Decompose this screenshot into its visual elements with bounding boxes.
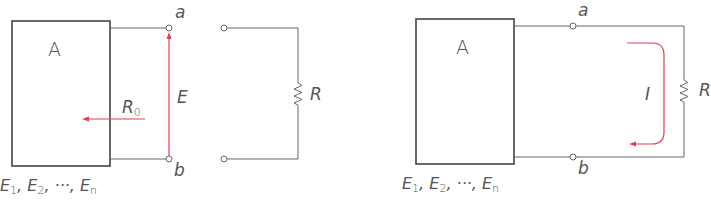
load-wire-right (576, 26, 688, 157)
current-label-i: I (645, 84, 650, 104)
terminal-b-left (166, 156, 172, 162)
network-label-right: A (456, 36, 469, 58)
r0-subscript: 0 (134, 106, 141, 119)
voltage-arrowhead-icon (167, 32, 172, 39)
circuit-diagram (0, 0, 711, 204)
load-terminal-top (221, 25, 227, 31)
r0-main: R (122, 97, 134, 117)
load-label-left: R (310, 84, 322, 104)
network-a-box-left (12, 21, 110, 166)
resistance-label-r0: R0 (122, 97, 141, 119)
network-label-left: A (48, 38, 61, 60)
terminal-b-label-left: b (174, 160, 185, 180)
terminal-a-label-right: a (578, 0, 588, 20)
terminal-a-right (570, 23, 576, 29)
terminal-a-left (166, 25, 172, 31)
terminal-b-right (570, 154, 576, 160)
load-terminal-bottom (221, 156, 227, 162)
voltage-label-e: E (177, 87, 188, 107)
sources-label-left: E1, E2, ···, En (0, 176, 97, 197)
current-arrowhead-icon (629, 142, 636, 147)
sources-label-right: E1, E2, ···, En (402, 174, 499, 195)
load-wire-left (227, 28, 302, 159)
terminal-b-label-right: b (578, 158, 589, 178)
r0-arrowhead-icon (82, 117, 89, 122)
terminal-a-label-left: a (175, 2, 185, 22)
load-label-right: R (699, 80, 711, 100)
